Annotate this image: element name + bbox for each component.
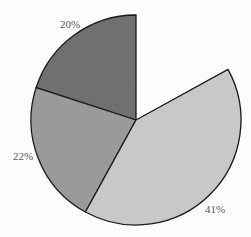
slice-label: 41% <box>205 203 225 215</box>
pie-chart: 20%22%41% <box>0 0 251 237</box>
pie-slices <box>31 15 241 225</box>
slice-label: 20% <box>60 18 80 30</box>
slice-label: 22% <box>13 150 33 162</box>
